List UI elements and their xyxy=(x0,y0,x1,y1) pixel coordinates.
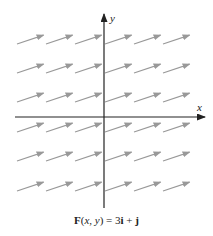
x-axis-label: x xyxy=(196,101,202,113)
vector-arrow xyxy=(17,152,44,161)
vector-arrow xyxy=(134,152,161,161)
vector-arrow xyxy=(105,123,132,132)
vector-arrow xyxy=(17,64,44,73)
vector-arrow xyxy=(46,182,73,191)
vector-arrow xyxy=(134,64,161,73)
vector-arrow xyxy=(134,93,161,102)
vector-arrow xyxy=(105,152,132,161)
vector-arrow xyxy=(163,93,190,102)
vector-arrow xyxy=(134,182,161,191)
vector-field-diagram: x y xyxy=(0,0,213,236)
caption-plus: + xyxy=(124,214,136,226)
vector-arrow xyxy=(17,123,44,132)
vector-arrow xyxy=(134,123,161,132)
vector-arrow xyxy=(46,152,73,161)
vector-arrows xyxy=(17,35,190,191)
caption-equals: ) = 3 xyxy=(100,214,121,226)
vector-field-equation: F(x, y) = 3i + j xyxy=(0,214,213,226)
y-axis-label: y xyxy=(109,12,115,24)
vector-arrow xyxy=(105,64,132,73)
vector-arrow xyxy=(75,64,102,73)
caption-F: F xyxy=(74,214,81,226)
vector-arrow xyxy=(46,64,73,73)
vector-arrow xyxy=(105,182,132,191)
vector-arrow xyxy=(75,123,102,132)
vector-arrow xyxy=(163,182,190,191)
vector-arrow xyxy=(163,123,190,132)
vector-arrow xyxy=(163,152,190,161)
vector-arrow xyxy=(17,35,44,44)
vector-arrow xyxy=(134,35,161,44)
vector-arrow xyxy=(105,35,132,44)
vector-arrow xyxy=(46,123,73,132)
vector-arrow xyxy=(17,182,44,191)
vector-arrow xyxy=(105,93,132,102)
vector-arrow xyxy=(75,35,102,44)
vector-arrow xyxy=(17,93,44,102)
vector-arrow xyxy=(163,35,190,44)
caption-j: j xyxy=(135,214,139,226)
vector-arrow xyxy=(46,35,73,44)
vector-arrow xyxy=(75,182,102,191)
vector-arrow xyxy=(163,64,190,73)
vector-arrow xyxy=(75,93,102,102)
vector-arrow xyxy=(75,152,102,161)
vector-arrow xyxy=(46,93,73,102)
